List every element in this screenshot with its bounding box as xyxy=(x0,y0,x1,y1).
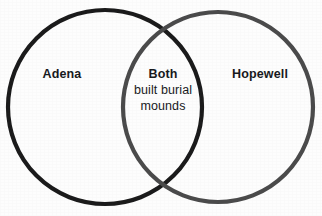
venn-label-intersection-line1: built burial xyxy=(123,82,203,98)
venn-label-right-title: Hopewell xyxy=(212,66,308,82)
venn-label-intersection-line2: mounds xyxy=(123,98,203,114)
venn-label-intersection: Both built burial mounds xyxy=(123,66,203,114)
venn-label-intersection-title: Both xyxy=(123,66,203,82)
venn-label-left-title: Adena xyxy=(12,66,112,82)
venn-diagram: Adena Both built burial mounds Hopewell xyxy=(0,0,322,216)
venn-label-left-set: Adena xyxy=(12,66,112,82)
venn-label-right-set: Hopewell xyxy=(212,66,308,82)
